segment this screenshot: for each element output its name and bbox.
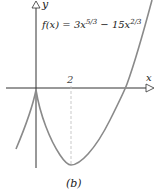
- x-tick-label: 2: [67, 74, 73, 85]
- formula-exponent: 2/3: [130, 18, 141, 26]
- formula-exponent: 5/3: [86, 18, 97, 26]
- y-axis-label: y: [42, 0, 48, 11]
- formula-part: f(x) = 3x: [42, 19, 86, 30]
- formula-part: − 15x: [97, 19, 130, 30]
- figure-caption: (b): [66, 177, 82, 190]
- y-axis-arrow-icon: [32, 1, 40, 8]
- function-formula: f(x) = 3x5/3 − 15x2/3: [42, 18, 142, 30]
- x-axis-arrow-icon: [146, 84, 154, 92]
- x-axis-label: x: [146, 72, 152, 83]
- chart-figure: y x 2 f(x) = 3x5/3 − 15x2/3 (b): [0, 0, 157, 194]
